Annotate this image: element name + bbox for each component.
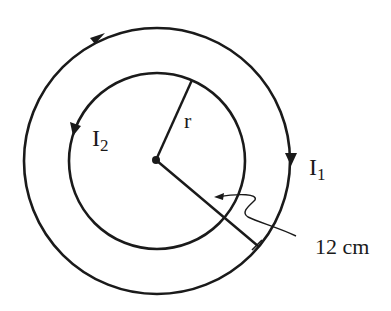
outer-radius-label: 12 cm bbox=[315, 234, 369, 259]
outer-arrow-right-icon bbox=[285, 153, 297, 166]
inner-loop-label: I2 bbox=[92, 125, 109, 155]
inner-arrow-left-icon bbox=[70, 122, 81, 136]
outer-loop-label: I1 bbox=[309, 154, 326, 184]
inner-radius-label: r bbox=[184, 108, 192, 133]
leader-arrow-icon bbox=[214, 193, 224, 200]
concentric-loops-diagram: I2 r I1 12 cm bbox=[0, 0, 391, 311]
